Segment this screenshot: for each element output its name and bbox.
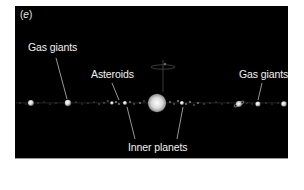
label-gas-giants-right: Gas giants — [239, 68, 288, 80]
planet-inner-right — [180, 101, 184, 105]
leader-gas-giants-left — [56, 58, 67, 99]
leader-inner-planets-left — [127, 107, 135, 139]
planet-inner-left — [123, 101, 127, 105]
planet-gas-giant-right — [255, 101, 260, 106]
planet-outer-right — [281, 101, 287, 107]
leader-gas-giants-right — [258, 83, 262, 100]
planet-inner-left-2 — [110, 101, 114, 105]
leader-asteroids — [112, 83, 119, 100]
axis-ring-marker — [151, 60, 175, 92]
planet-ringed-gas-giant — [233, 100, 244, 108]
label-asteroids: Asteroids — [91, 68, 134, 80]
planet-gas-giant-left — [65, 100, 71, 106]
solar-system-diagram — [0, 0, 304, 190]
label-inner-planets: Inner planets — [128, 141, 187, 153]
planet-outer-left — [28, 100, 34, 106]
leader-inner-planets-right — [177, 107, 183, 139]
label-gas-giants-left: Gas giants — [28, 41, 77, 53]
sun — [147, 93, 167, 113]
